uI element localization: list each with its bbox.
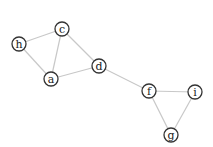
node-label: a (48, 73, 55, 86)
node-label: i (193, 86, 197, 99)
node-h: h (12, 37, 26, 51)
node-i: i (188, 85, 202, 99)
nodes-layer: hcadfig (12, 22, 202, 142)
edge-c-d (62, 29, 99, 66)
edge-d-f (99, 66, 149, 91)
graph-diagram: hcadfig (0, 0, 213, 147)
node-d: d (92, 59, 106, 73)
node-a: a (44, 72, 58, 86)
edge-c-a (51, 29, 62, 79)
node-label: d (95, 60, 102, 73)
graph-canvas: hcadfig (0, 0, 213, 147)
node-label: g (167, 129, 174, 142)
node-f: f (142, 84, 156, 98)
node-label: h (15, 38, 22, 51)
node-label: c (59, 23, 65, 36)
node-g: g (164, 128, 178, 142)
node-c: c (55, 22, 69, 36)
